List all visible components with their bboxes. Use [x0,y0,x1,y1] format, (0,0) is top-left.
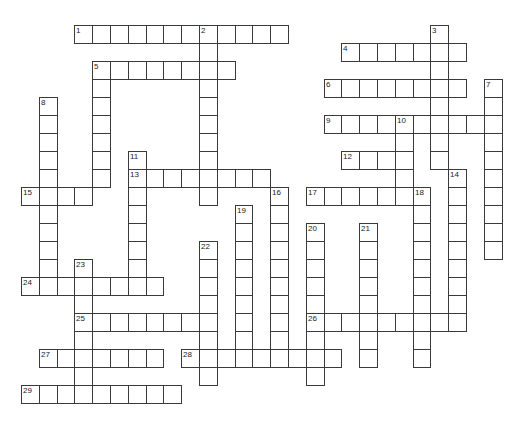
crossword-cell[interactable] [377,187,396,206]
crossword-cell[interactable] [57,349,75,368]
crossword-cell[interactable] [359,151,378,170]
crossword-cell[interactable] [235,241,253,260]
crossword-cell[interactable] [163,169,182,188]
crossword-cell[interactable] [92,79,111,98]
crossword-cell[interactable] [484,205,503,224]
crossword-cell[interactable]: 12 [341,151,360,170]
crossword-cell[interactable]: 14 [448,169,467,188]
crossword-cell[interactable] [128,277,147,296]
crossword-cell[interactable] [217,169,236,188]
crossword-cell[interactable] [146,25,164,44]
crossword-cell[interactable] [484,187,503,206]
crossword-cell[interactable] [306,241,325,260]
crossword-cell[interactable] [270,223,289,242]
crossword-cell[interactable] [39,205,58,224]
crossword-cell[interactable] [110,313,129,332]
crossword-cell[interactable] [128,61,147,80]
crossword-cell[interactable] [163,313,182,332]
crossword-cell[interactable]: 26 [306,313,325,332]
crossword-cell[interactable] [324,187,342,206]
crossword-cell[interactable]: 8 [39,97,58,116]
crossword-cell[interactable] [39,169,58,188]
crossword-cell[interactable] [306,277,325,296]
crossword-cell[interactable] [306,367,325,386]
crossword-cell[interactable] [359,241,378,260]
crossword-cell[interactable] [92,169,111,188]
crossword-cell[interactable] [270,349,289,368]
crossword-cell[interactable]: 9 [324,115,342,134]
crossword-cell[interactable] [484,133,503,152]
crossword-cell[interactable] [448,115,467,134]
crossword-cell[interactable] [110,385,129,404]
crossword-cell[interactable]: 10 [395,115,414,134]
crossword-cell[interactable]: 25 [74,313,93,332]
crossword-cell[interactable] [199,169,218,188]
crossword-cell[interactable] [288,349,307,368]
crossword-cell[interactable] [359,313,378,332]
crossword-cell[interactable] [199,367,218,386]
crossword-cell[interactable] [413,43,431,62]
crossword-cell[interactable] [306,259,325,278]
crossword-cell[interactable] [359,43,378,62]
crossword-cell[interactable]: 6 [324,79,342,98]
crossword-cell[interactable] [430,79,449,98]
crossword-cell[interactable] [235,169,253,188]
crossword-cell[interactable] [39,241,58,260]
crossword-cell[interactable] [341,187,360,206]
crossword-cell[interactable]: 4 [341,43,360,62]
crossword-cell[interactable]: 20 [306,223,325,242]
crossword-cell[interactable]: 21 [359,223,378,242]
crossword-cell[interactable] [92,385,111,404]
crossword-cell[interactable] [181,313,200,332]
crossword-cell[interactable] [395,313,414,332]
crossword-cell[interactable] [110,61,129,80]
crossword-cell[interactable]: 1 [74,25,93,44]
crossword-cell[interactable] [377,115,396,134]
crossword-cell[interactable]: 7 [484,79,503,98]
crossword-cell[interactable] [128,259,147,278]
crossword-cell[interactable] [235,259,253,278]
crossword-cell[interactable] [181,61,200,80]
crossword-cell[interactable] [39,277,58,296]
crossword-cell[interactable]: 15 [21,187,40,206]
crossword-cell[interactable] [270,259,289,278]
crossword-cell[interactable] [163,385,182,404]
crossword-cell[interactable] [484,169,503,188]
crossword-cell[interactable] [359,331,378,350]
crossword-cell[interactable]: 17 [306,187,325,206]
crossword-cell[interactable] [57,187,75,206]
crossword-cell[interactable] [413,331,431,350]
crossword-cell[interactable] [74,331,93,350]
crossword-cell[interactable] [341,115,360,134]
crossword-cell[interactable] [39,259,58,278]
crossword-cell[interactable]: 18 [413,187,431,206]
crossword-cell[interactable]: 27 [39,349,58,368]
crossword-cell[interactable] [448,205,467,224]
crossword-cell[interactable] [484,115,503,134]
crossword-cell[interactable] [466,115,485,134]
crossword-cell[interactable] [199,115,218,134]
crossword-cell[interactable] [395,43,414,62]
crossword-cell[interactable] [377,79,396,98]
crossword-cell[interactable] [395,187,414,206]
crossword-cell[interactable] [448,187,467,206]
crossword-cell[interactable]: 23 [74,259,93,278]
crossword-cell[interactable] [430,313,449,332]
crossword-cell[interactable] [324,349,342,368]
crossword-cell[interactable] [235,349,253,368]
crossword-cell[interactable] [484,97,503,116]
crossword-cell[interactable] [39,223,58,242]
crossword-cell[interactable] [359,349,378,368]
crossword-cell[interactable] [199,295,218,314]
crossword-cell[interactable] [448,241,467,260]
crossword-cell[interactable] [359,295,378,314]
crossword-cell[interactable] [57,385,75,404]
crossword-cell[interactable] [306,295,325,314]
crossword-cell[interactable] [57,277,75,296]
crossword-cell[interactable] [92,97,111,116]
crossword-cell[interactable] [413,115,431,134]
crossword-cell[interactable] [181,169,200,188]
crossword-cell[interactable] [306,331,325,350]
crossword-cell[interactable] [430,151,449,170]
crossword-cell[interactable] [359,259,378,278]
